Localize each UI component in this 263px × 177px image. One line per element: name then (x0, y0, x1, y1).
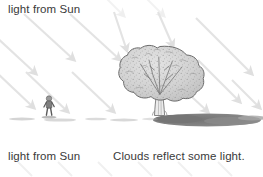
tree (116, 44, 208, 116)
illustration-canvas: light from Sun light from Sun Clouds ref… (0, 0, 263, 177)
caption-light-from-sun-top: light from Sun (8, 3, 80, 16)
caption-clouds-reflect: Clouds reflect some light. (113, 150, 245, 163)
caption-light-from-sun-bottom: light from Sun (8, 150, 80, 163)
canopy-texture (116, 44, 208, 102)
ground-texture (9, 118, 158, 122)
